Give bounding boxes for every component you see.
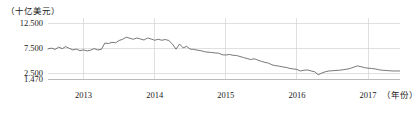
grid-lines: [48, 18, 400, 79]
series-line: [48, 37, 400, 75]
